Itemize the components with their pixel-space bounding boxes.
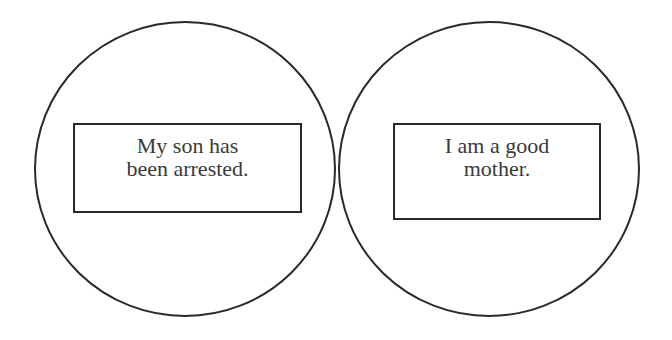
- left-statement-line-1: My son has: [75, 134, 300, 157]
- right-statement-line-2: mother.: [395, 157, 599, 180]
- right-statement-line-1: I am a good: [395, 134, 599, 157]
- right-statement-box: I am a good mother.: [393, 123, 601, 220]
- left-statement-line-2: been arrested.: [75, 157, 300, 180]
- left-statement-box: My son has been arrested.: [73, 123, 302, 213]
